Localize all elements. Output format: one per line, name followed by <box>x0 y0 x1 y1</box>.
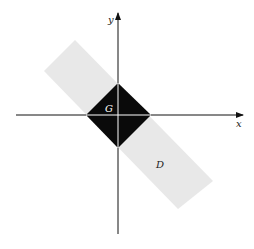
diagram-canvas: y x G D <box>0 0 254 249</box>
y-axis-label: y <box>107 14 114 25</box>
region-g-label: G <box>105 103 113 114</box>
region-d-label: D <box>155 159 164 170</box>
x-axis-label: x <box>236 118 242 129</box>
